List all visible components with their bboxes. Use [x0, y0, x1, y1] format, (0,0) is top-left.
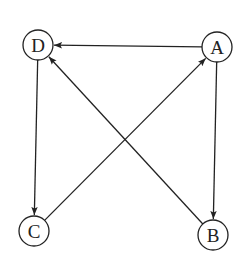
node-label: B	[207, 225, 220, 246]
graph-canvas: DACB	[0, 0, 246, 255]
edge-a-to-d	[54, 45, 202, 47]
node-label: C	[28, 221, 41, 242]
node-d: D	[23, 30, 53, 60]
edge-d-to-c	[34, 60, 37, 215]
edge-c-to-a	[45, 58, 206, 220]
node-b: B	[198, 220, 228, 250]
node-c: C	[19, 216, 49, 246]
edge-b-to-d	[49, 57, 203, 224]
node-label: A	[210, 37, 224, 58]
edges	[34, 45, 216, 224]
node-a: A	[202, 32, 232, 62]
node-label: D	[31, 35, 45, 56]
edge-a-to-b	[213, 62, 216, 219]
